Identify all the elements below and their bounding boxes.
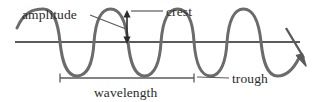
crest-annotation: crest [131, 4, 192, 19]
axis-arrow [286, 28, 306, 66]
wavelength-label: wavelength [94, 85, 157, 100]
trough-annotation: trough [197, 71, 268, 86]
crest-label: crest [166, 4, 192, 19]
trough-label: trough [232, 71, 268, 86]
wave-anatomy-diagram: amplitude crest trough wavelength [0, 0, 317, 102]
wave-diagram-canvas: amplitude crest trough wavelength [0, 0, 317, 102]
trough-leader-line [197, 77, 229, 78]
amplitude-annotation: amplitude [22, 7, 131, 44]
amplitude-arrow-head-up [123, 10, 130, 18]
wavelength-annotation: wavelength [60, 74, 194, 101]
amplitude-label: amplitude [22, 7, 77, 22]
